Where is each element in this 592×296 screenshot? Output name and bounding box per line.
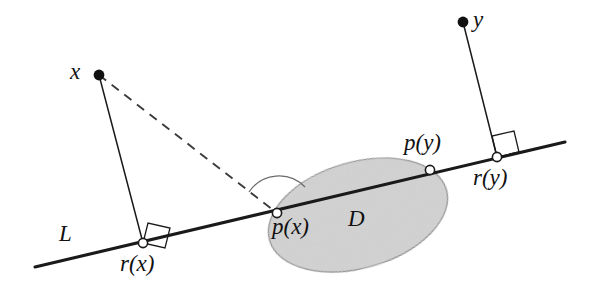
point-y-marker <box>458 17 469 28</box>
point-rx-marker <box>138 238 147 247</box>
label-point-x: x <box>70 60 80 83</box>
label-line-L: L <box>59 222 72 245</box>
segment-x-to-rx <box>99 75 143 243</box>
label-region-D: D <box>348 207 365 230</box>
point-ry-marker <box>492 152 501 161</box>
label-r-of-y: r(y) <box>473 166 507 189</box>
label-point-y: y <box>473 8 483 31</box>
label-p-of-y: p(y) <box>404 131 441 154</box>
point-x-marker <box>94 70 105 81</box>
diagram-canvas: x y L D r(x) r(y) p(x) p(y) <box>0 0 592 296</box>
label-r-of-x: r(x) <box>120 252 154 275</box>
segment-x-to-px-dashed <box>99 75 277 213</box>
geometry-figure <box>0 0 592 296</box>
point-py-marker <box>425 165 434 174</box>
label-p-of-x: p(x) <box>272 215 309 238</box>
